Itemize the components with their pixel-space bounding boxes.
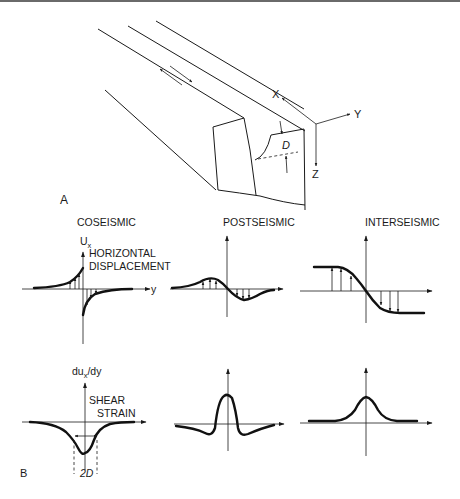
column-title-interseismic: INTERSEISMIC — [365, 216, 440, 228]
z-axis-label: Z — [312, 168, 319, 180]
panel-a-label: A — [60, 193, 68, 207]
strain-label: STRAIN — [97, 407, 136, 419]
displacement-label: DISPLACEMENT — [89, 260, 171, 272]
interseismic-displacement-plot — [300, 236, 432, 323]
column-title-postseismic: POSTSEISMIC — [223, 216, 295, 228]
interseismic-strain-plot — [300, 368, 432, 456]
depth-label: D — [282, 139, 290, 151]
shear-label: SHEAR — [89, 394, 126, 406]
coseismic-displacement-plot: Ux HORIZONTAL DISPLACEMENT y — [22, 235, 171, 344]
panel-b-label: B — [20, 467, 27, 479]
coseismic-strain-plot: dux/dy SHEAR STRAIN 2D B — [20, 365, 146, 479]
y-axis-label: Y — [354, 108, 362, 120]
postseismic-strain-plot — [174, 369, 284, 451]
horizontal-label: HORIZONTAL — [89, 247, 156, 259]
figure: D X Y Z A COSEISMIC POSTSEISMIC INTERSEI… — [0, 0, 460, 499]
strain-ylabel: dux/dy — [72, 365, 102, 380]
panel-a-block-diagram: D — [98, 21, 305, 210]
width-2d-label: 2D — [79, 467, 94, 479]
x-axis-label: X — [272, 88, 280, 100]
postseismic-displacement-plot — [170, 236, 283, 317]
strike-slip-arrows-icon — [160, 66, 192, 85]
coordinate-axes: X Y Z — [272, 88, 362, 180]
y-axis-label-b: y — [151, 283, 157, 295]
column-title-coseismic: COSEISMIC — [77, 216, 136, 228]
